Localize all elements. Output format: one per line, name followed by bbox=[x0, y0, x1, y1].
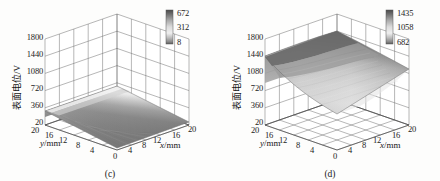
panel-c-zaxis-title: 表面电位/V bbox=[10, 65, 23, 110]
panel-d-zaxis-title: 表面电位/V bbox=[230, 65, 243, 110]
panel-c-colorbar-label-min: 8 bbox=[177, 38, 181, 47]
panel-c-colorbar-label-max: 672 bbox=[177, 9, 189, 18]
panel-d-xaxis-unit: /mm bbox=[384, 140, 401, 150]
panel-d-colorbar-label-mid: 1058 bbox=[397, 23, 413, 32]
panel-c-ytick-0: 20 bbox=[31, 126, 39, 135]
panel-d-xtick-1: 4 bbox=[348, 146, 352, 155]
panel-c-ytick-5: 0 bbox=[113, 152, 117, 161]
panel-d-colorbar-label-max: 1435 bbox=[397, 9, 413, 18]
panel-c-yaxis-unit: /mm bbox=[44, 138, 61, 148]
panel-c-ytick-4: 4 bbox=[90, 146, 94, 155]
panel-d-ytick-0: 20 bbox=[251, 126, 259, 135]
panel-d-xaxis-title: x/mm bbox=[380, 140, 401, 150]
panel-c-ztick-0: 1800 bbox=[6, 33, 43, 42]
panel-d-ytick-5: 0 bbox=[333, 152, 337, 161]
panel-d-yaxis-unit: /mm bbox=[264, 138, 281, 148]
panel-d-ztick-0: 1800 bbox=[226, 33, 263, 42]
panel-c-yaxis-title: y/mm bbox=[40, 138, 61, 148]
panel-c: 1800 1440 1080 720 360 20 表面电位/V 20 16 1… bbox=[0, 0, 220, 181]
panel-d-yaxis-title: y/mm bbox=[260, 138, 281, 148]
panel-c-ztick-1: 1440 bbox=[6, 50, 43, 59]
panel-d: 1800 1440 1080 720 360 20 表面电位/V 20 16 1… bbox=[220, 0, 440, 181]
panel-c-caption: (c) bbox=[0, 169, 220, 179]
panel-d-caption: (d) bbox=[220, 169, 440, 179]
panel-c-colorbar-gradient bbox=[166, 10, 173, 44]
panel-c-xtick-5: 20 bbox=[188, 125, 196, 134]
panel-d-ztick-1: 1440 bbox=[226, 50, 263, 59]
figure-3d-surface-pair: 1800 1440 1080 720 360 20 表面电位/V 20 16 1… bbox=[0, 0, 440, 181]
panel-c-xtick-4: 16 bbox=[172, 131, 180, 140]
panel-c-xaxis-unit: /mm bbox=[164, 140, 181, 150]
panel-c-xtick-1: 4 bbox=[128, 146, 132, 155]
panel-d-colorbar-gradient bbox=[386, 10, 393, 44]
panel-c-colorbar-label-mid: 312 bbox=[177, 23, 189, 32]
panel-d-ytick-4: 4 bbox=[310, 146, 314, 155]
panel-c-xtick-2: 8 bbox=[142, 141, 146, 150]
panel-d-xtick-5: 20 bbox=[408, 125, 416, 134]
panel-d-xtick-2: 8 bbox=[362, 141, 366, 150]
panel-d-ytick-3: 8 bbox=[296, 141, 300, 150]
panel-d-colorbar-label-min: 682 bbox=[397, 38, 409, 47]
panel-c-ytick-3: 8 bbox=[76, 141, 80, 150]
panel-d-xtick-4: 16 bbox=[392, 131, 400, 140]
panel-c-xaxis-title: x/mm bbox=[160, 140, 181, 150]
